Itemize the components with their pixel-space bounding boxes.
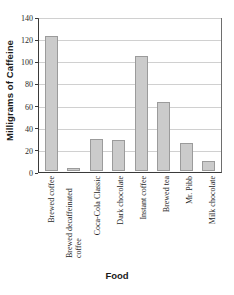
y-axis-tickmark xyxy=(35,84,38,85)
x-axis-tick-label: Brewed coffee xyxy=(46,176,55,223)
y-axis-tickmark xyxy=(35,106,38,107)
x-axis-tick-label-slot: Milk chocolate xyxy=(200,176,223,262)
bar xyxy=(202,161,215,171)
bar xyxy=(180,143,193,171)
y-axis-tickmark xyxy=(35,173,38,174)
bar-slot xyxy=(198,20,221,171)
gridline xyxy=(39,18,221,19)
x-axis-title: Food xyxy=(0,270,234,281)
x-axis-tick-label-slot: Brewed decaffeinated coffee xyxy=(62,176,85,262)
bar xyxy=(112,140,125,171)
x-axis-tick-label: Brewed tea xyxy=(161,176,170,212)
bar xyxy=(67,168,80,171)
bar xyxy=(157,102,170,171)
bars-group xyxy=(40,20,220,171)
bar-slot xyxy=(108,20,131,171)
x-axis-tick-label: Instant coffee xyxy=(138,176,147,220)
y-axis-tick-label: 100 xyxy=(21,58,33,67)
x-axis-tick-labels-group: Brewed coffeeBrewed decaffeinated coffee… xyxy=(39,176,223,262)
y-axis-tick-label: 80 xyxy=(25,80,33,89)
chart-figure: Milligrams of Caffeine 02040608010012014… xyxy=(0,0,234,295)
x-axis-tick-label-slot: Dark chocolate xyxy=(108,176,131,262)
y-axis-tickmark xyxy=(35,18,38,19)
y-axis-tick-label: 60 xyxy=(25,102,33,111)
x-axis-tick-label: Milk chocolate xyxy=(207,176,216,224)
y-axis-tickmark xyxy=(35,150,38,151)
y-axis-tick-label: 140 xyxy=(21,14,33,23)
x-axis-tick-label: Mr. Pibb xyxy=(184,176,193,204)
y-axis-title: Milligrams of Caffeine xyxy=(0,0,18,180)
y-axis-title-text: Milligrams of Caffeine xyxy=(4,40,15,141)
bar-slot xyxy=(63,20,86,171)
x-axis-tick-label-slot: Brewed coffee xyxy=(39,176,62,262)
bar-slot xyxy=(85,20,108,171)
x-axis-tick-label-slot: Coca-Cola Classic xyxy=(85,176,108,262)
bar xyxy=(135,56,148,171)
x-axis-tick-label: Brewed decaffeinated coffee xyxy=(65,176,83,258)
bar-slot xyxy=(153,20,176,171)
plot-area-wrapper: 020406080100120140 xyxy=(38,18,222,173)
y-axis-tick-label: 40 xyxy=(25,124,33,133)
y-axis-tickmark xyxy=(35,128,38,129)
x-axis-tick-label-slot: Brewed tea xyxy=(154,176,177,262)
x-axis-tick-label: Dark chocolate xyxy=(115,176,124,225)
y-axis-tick-label: 0 xyxy=(29,169,33,178)
bar-slot xyxy=(130,20,153,171)
x-axis-tick-label: Coca-Cola Classic xyxy=(92,176,101,235)
x-axis-tick-label-slot: Mr. Pibb xyxy=(177,176,200,262)
bar xyxy=(90,139,103,171)
x-axis-tick-label-slot: Instant coffee xyxy=(131,176,154,262)
plot-area xyxy=(38,18,222,173)
y-axis-tickmark xyxy=(35,40,38,41)
y-axis-tick-label: 20 xyxy=(25,146,33,155)
y-axis-tickmark xyxy=(35,62,38,63)
y-axis-tick-label: 120 xyxy=(21,36,33,45)
bar xyxy=(45,36,58,172)
bar-slot xyxy=(40,20,63,171)
bar-slot xyxy=(175,20,198,171)
